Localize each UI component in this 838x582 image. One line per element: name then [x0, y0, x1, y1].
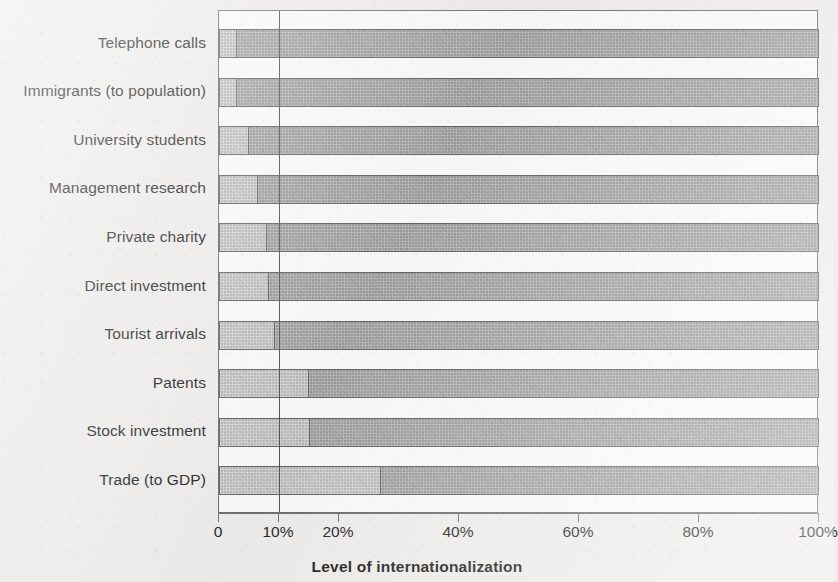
category-label: Patents	[10, 375, 206, 391]
category-label: Trade (to GDP)	[10, 472, 206, 488]
category-label: Management research	[10, 181, 206, 197]
bar-segment-domestic-share	[274, 321, 819, 350]
bar-direct-investment	[219, 272, 819, 301]
bar-segment-international-share	[219, 369, 309, 398]
x-axis-tick	[578, 513, 579, 522]
bar-segment-international-share	[219, 126, 249, 155]
bar-university-students	[219, 126, 819, 155]
x-axis-tick-label: 100%	[798, 524, 838, 540]
bar-segment-domestic-share	[268, 272, 819, 301]
bar-segment-domestic-share	[309, 418, 819, 447]
x-axis-title: Level of internationalization	[0, 558, 834, 576]
bar-telephone-calls	[219, 29, 819, 58]
bar-private-charity	[219, 223, 819, 252]
category-label: University students	[10, 132, 206, 148]
category-label: Telephone calls	[10, 35, 206, 51]
bar-segment-international-share	[219, 29, 237, 58]
bar-tourist-arrivals	[219, 321, 819, 350]
bar-segment-domestic-share	[257, 175, 819, 204]
x-axis-tick	[458, 513, 459, 522]
x-axis-tick	[818, 513, 819, 522]
bar-segment-international-share	[219, 418, 310, 447]
x-axis-tick-label: 60%	[562, 524, 593, 540]
bar-segment-domestic-share	[266, 223, 819, 252]
bar-segment-international-share	[219, 78, 237, 107]
plot-area	[218, 10, 818, 513]
bar-trade-to-gdp	[219, 466, 819, 495]
category-label: Immigrants (to population)	[10, 83, 206, 99]
x-axis-tick	[278, 513, 279, 522]
x-axis-tick	[698, 513, 699, 522]
bar-segment-international-share	[219, 321, 275, 350]
x-axis-tick	[338, 513, 339, 522]
category-label: Stock investment	[10, 424, 206, 440]
category-label: Direct investment	[10, 278, 206, 294]
x-axis-tick-label: 20%	[322, 524, 353, 540]
category-label: Private charity	[10, 229, 206, 245]
bar-segment-domestic-share	[248, 126, 819, 155]
bar-segment-domestic-share	[236, 78, 819, 107]
bar-stock-investment	[219, 418, 819, 447]
bar-segment-international-share	[219, 272, 269, 301]
bar-immigrants-to-population	[219, 78, 819, 107]
x-axis-tick-label: 80%	[682, 524, 713, 540]
bar-segment-domestic-share	[308, 369, 819, 398]
category-axis-labels: Telephone callsImmigrants (to population…	[0, 0, 206, 582]
x-axis-tick-label: 0	[214, 524, 223, 540]
bar-segment-international-share	[219, 175, 258, 204]
category-label: Tourist arrivals	[10, 326, 206, 342]
bar-patents	[219, 369, 819, 398]
x-axis-tick	[218, 513, 219, 522]
x-axis-tick-label: 10%	[262, 524, 293, 540]
bar-segment-international-share	[219, 466, 381, 495]
x-axis-tick-label: 40%	[442, 524, 473, 540]
reference-line-10-percent	[279, 11, 280, 512]
x-axis-line	[218, 513, 818, 514]
bar-segment-domestic-share	[236, 29, 819, 58]
bar-segment-international-share	[219, 223, 267, 252]
bar-segment-domestic-share	[380, 466, 819, 495]
bar-management-research	[219, 175, 819, 204]
